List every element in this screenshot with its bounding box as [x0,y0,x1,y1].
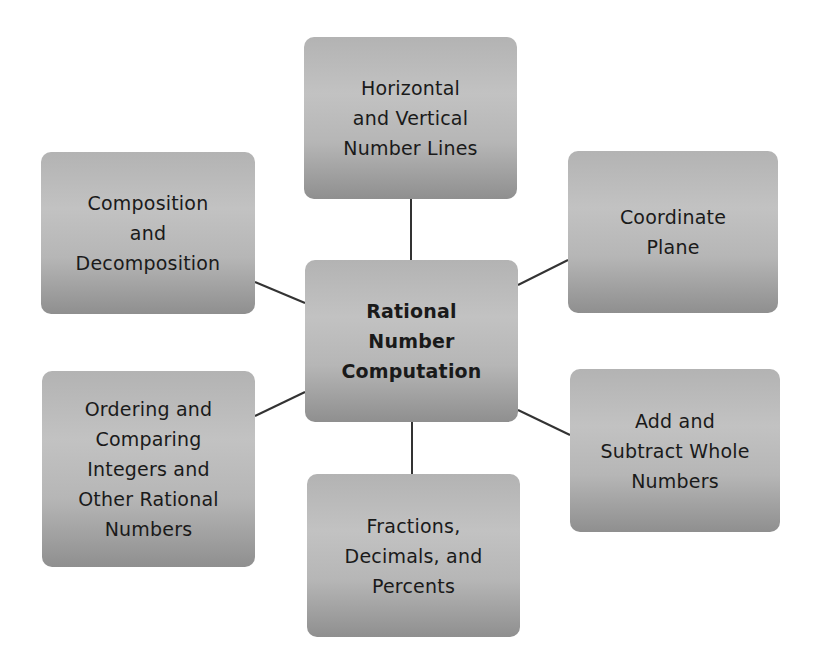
node-label: Add and Subtract Whole Numbers [600,406,749,496]
connector-top-left [255,282,305,303]
node-label: Horizontal and Vertical Number Lines [343,73,477,163]
node-composition-decomposition: Composition and Decomposition [41,152,255,314]
concept-map: Horizontal and Vertical Number Lines Com… [0,0,817,666]
node-coordinate-plane: Coordinate Plane [568,151,778,313]
node-horizontal-vertical-number-lines: Horizontal and Vertical Number Lines [304,37,517,199]
node-ordering-comparing: Ordering and Comparing Integers and Othe… [42,371,255,567]
node-fractions-decimals-percents: Fractions, Decimals, and Percents [307,474,520,637]
node-label: Coordinate Plane [620,202,726,262]
connector-bottom-right [518,410,570,435]
center-label: Rational Number Computation [341,296,481,386]
node-label: Composition and Decomposition [76,188,221,278]
node-center-rational-number-computation: Rational Number Computation [305,260,518,422]
node-label: Ordering and Comparing Integers and Othe… [78,394,219,544]
node-label: Fractions, Decimals, and Percents [345,511,483,601]
connector-bottom-left [255,392,305,416]
connector-top-right [518,260,568,285]
node-add-subtract-whole-numbers: Add and Subtract Whole Numbers [570,369,780,532]
